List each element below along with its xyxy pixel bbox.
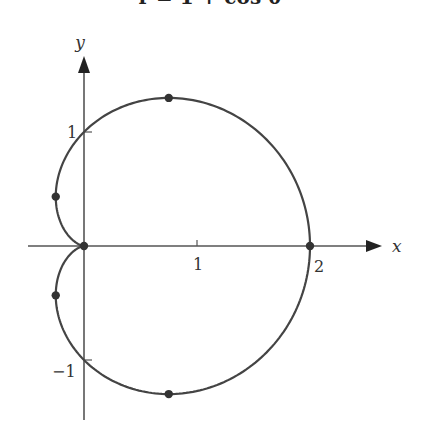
- y-tick-label-neg1: −1: [52, 362, 76, 381]
- x-tick-label-2: 2: [314, 257, 324, 276]
- data-point: [52, 192, 60, 200]
- data-point: [306, 242, 314, 250]
- data-point: [52, 291, 60, 299]
- data-point: [165, 94, 173, 102]
- x-axis-arrow-icon: [366, 240, 382, 252]
- y-axis-arrow-icon: [78, 56, 90, 73]
- x-tick-label-1: 1: [193, 255, 203, 274]
- chart-title: r = 1 + cos θ: [139, 0, 282, 9]
- data-point: [80, 242, 88, 250]
- cardioid-chart: r = 1 + cos θ x y 1 2 1 −1: [0, 0, 421, 439]
- y-tick-label-1: 1: [67, 123, 77, 142]
- y-axis-label: y: [74, 32, 85, 52]
- data-point: [165, 390, 173, 398]
- axes: x y: [28, 32, 402, 420]
- x-axis-label: x: [392, 236, 402, 256]
